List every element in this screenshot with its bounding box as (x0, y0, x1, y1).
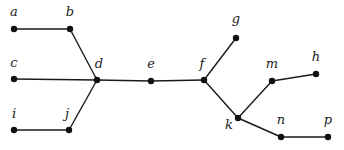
node-label-h: h (312, 49, 320, 64)
node-label-b: b (66, 4, 74, 19)
node-label-g: g (232, 11, 240, 26)
edge-m-h (272, 74, 316, 81)
node-d (94, 77, 100, 83)
node-label-i: i (12, 106, 16, 121)
node-label-j: j (62, 106, 69, 121)
node-b (67, 26, 73, 32)
node-c (11, 76, 17, 82)
node-p (325, 134, 331, 140)
node-label-a: a (10, 4, 18, 19)
node-h (313, 71, 319, 77)
node-a (11, 26, 17, 32)
node-k (235, 115, 241, 121)
node-label-f: f (199, 56, 207, 71)
node-g (233, 35, 239, 41)
node-label-d: d (95, 56, 103, 71)
node-label-p: p (324, 112, 333, 127)
node-i (11, 127, 17, 133)
edge-k-m (238, 81, 272, 118)
edge-c-d (14, 79, 97, 80)
node-label-k: k (225, 117, 233, 132)
edge-k-n (238, 118, 281, 137)
edge-f-g (204, 38, 236, 80)
node-j (66, 127, 72, 133)
edge-d-e (97, 80, 151, 81)
node-e (148, 78, 154, 84)
node-label-m: m (266, 56, 278, 71)
node-m (269, 78, 275, 84)
graph-diagram: abcdefghijkmnp (0, 0, 344, 150)
node-label-e: e (147, 56, 155, 71)
node-label-c: c (10, 55, 18, 70)
edge-e-f (151, 80, 204, 81)
node-f (201, 77, 207, 83)
node-label-n: n (277, 112, 285, 127)
node-n (278, 134, 284, 140)
edge-b-d (70, 29, 97, 80)
edge-f-k (204, 80, 238, 118)
labels: abcdefghijkmnp (10, 4, 333, 132)
edge-j-d (69, 80, 97, 130)
